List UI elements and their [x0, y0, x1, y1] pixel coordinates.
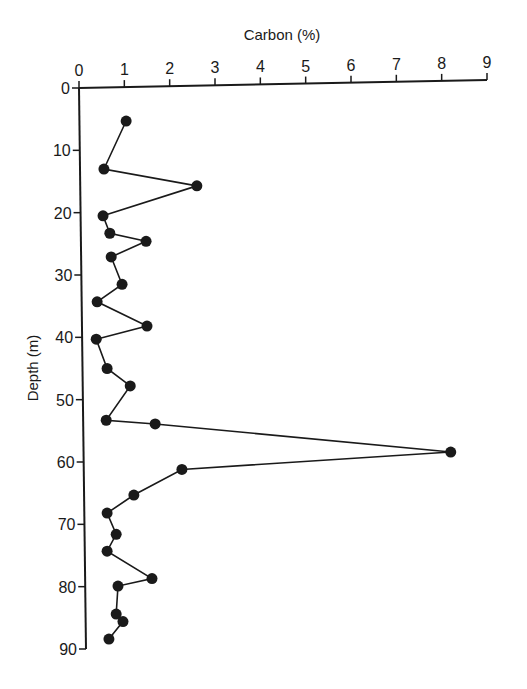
data-series: [91, 116, 457, 645]
data-point: [146, 573, 157, 584]
x-tick-label: 0: [75, 62, 84, 79]
data-point: [150, 418, 161, 429]
x-axis-label: Carbon (%): [244, 26, 321, 43]
y-tick-label: 80: [58, 579, 76, 596]
data-point: [121, 116, 132, 127]
x-tick-label: 7: [392, 56, 401, 73]
data-point: [106, 251, 117, 262]
data-point: [92, 296, 103, 307]
data-point: [102, 508, 113, 519]
x-tick-label: 1: [120, 61, 129, 78]
y-tick-label: 50: [56, 392, 74, 409]
data-point: [104, 228, 115, 239]
data-point: [445, 447, 456, 458]
data-point: [98, 164, 109, 175]
series-line: [96, 121, 451, 639]
y-tick-label: 90: [59, 641, 77, 658]
data-point: [103, 634, 114, 645]
data-point: [191, 180, 202, 191]
data-point: [117, 279, 128, 290]
y-tick-label: 0: [61, 80, 70, 97]
x-tick-label: 9: [483, 54, 492, 71]
data-point: [101, 415, 112, 426]
data-point: [125, 380, 136, 391]
x-tick-label: 6: [347, 57, 356, 74]
axes: 01234567890102030405060708090: [53, 54, 492, 658]
x-tick-label: 5: [301, 58, 310, 75]
y-tick-label: 60: [57, 454, 75, 471]
y-tick-label: 40: [55, 329, 73, 346]
y-axis-line: [79, 88, 86, 649]
data-point: [102, 546, 113, 557]
data-point: [142, 321, 153, 332]
y-tick-label: 10: [53, 142, 71, 159]
x-tick-label: 4: [256, 58, 265, 75]
data-point: [141, 236, 152, 247]
data-point: [98, 210, 109, 221]
x-axis-line: [79, 80, 487, 88]
data-point: [91, 334, 102, 345]
y-tick-label: 70: [58, 516, 76, 533]
x-tick-label: 3: [211, 59, 220, 76]
data-point: [128, 490, 139, 501]
carbon-depth-chart: Carbon (%) Depth (m) 0123456789010203040…: [0, 0, 527, 689]
data-point: [117, 616, 128, 627]
data-point: [112, 581, 123, 592]
y-axis-label: Depth (m): [24, 335, 41, 402]
data-point: [176, 464, 187, 475]
y-tick-label: 30: [55, 267, 73, 284]
data-point: [102, 363, 113, 374]
data-point: [111, 529, 122, 540]
x-tick-label: 2: [165, 60, 174, 77]
x-tick-label: 8: [437, 55, 446, 72]
y-tick-label: 20: [54, 205, 72, 222]
